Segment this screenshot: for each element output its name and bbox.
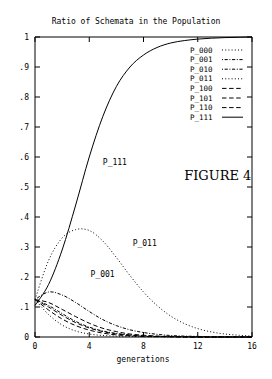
x-tick-label: 4 (87, 342, 92, 351)
legend-label-p_000: P_000 (190, 46, 213, 55)
curve-p_001 (35, 292, 252, 337)
y-tick-label: .6 (19, 153, 29, 162)
x-tick-label: 8 (141, 342, 146, 351)
x-tick-label: 12 (193, 342, 203, 351)
legend-label-p_101: P_101 (190, 94, 213, 103)
curve-annotations: P_111P_011P_001FIGURE 4 (91, 158, 252, 280)
legend-label-p_001: P_001 (190, 55, 213, 64)
x-tick-label: 0 (33, 342, 38, 351)
y-tick-label: .9 (19, 63, 29, 72)
y-axis-ticks: 0.1.2.3.4.5.6.7.8.91 (19, 33, 252, 342)
y-tick-label: .4 (19, 213, 29, 222)
chart-title: Ratio of Schemata in the Population (52, 17, 221, 26)
legend-label-p_111: P_111 (190, 113, 213, 122)
annotation-p_011: P_011 (133, 239, 157, 248)
legend: P_000P_001P_010P_011P_100P_101P_110P_111 (190, 46, 243, 122)
figure-caption: FIGURE 4 (184, 168, 251, 183)
x-axis-label: generations (117, 355, 170, 364)
y-tick-label: .8 (19, 93, 29, 102)
legend-label-p_010: P_010 (190, 65, 213, 74)
legend-label-p_011: P_011 (190, 74, 213, 83)
y-tick-label: .5 (19, 183, 29, 192)
x-axis-ticks: 0481216 (33, 37, 257, 351)
y-tick-label: .1 (19, 303, 29, 312)
legend-label-p_110: P_110 (190, 103, 213, 112)
y-tick-label: .2 (19, 273, 29, 282)
y-tick-label: .7 (19, 123, 29, 132)
y-tick-label: 0 (24, 333, 29, 342)
y-tick-label: 1 (24, 33, 29, 42)
x-tick-label: 16 (247, 342, 257, 351)
y-tick-label: .3 (19, 243, 29, 252)
legend-label-p_100: P_100 (190, 84, 213, 93)
annotation-p_001: P_001 (91, 270, 115, 279)
figure-container: Ratio of Schemata in the Population 0.1.… (0, 0, 272, 379)
annotation-p_111: P_111 (103, 158, 127, 167)
curve-p_110 (35, 300, 252, 338)
chart-canvas: Ratio of Schemata in the Population 0.1.… (0, 0, 272, 379)
data-curves (35, 37, 252, 337)
